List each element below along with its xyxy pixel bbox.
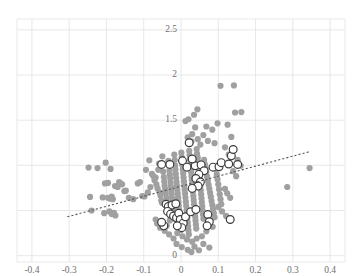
y-tick-label: 2.5	[165, 25, 177, 35]
y-tick-label: 1.5	[165, 115, 177, 125]
data-point	[224, 122, 230, 128]
data-point	[179, 233, 185, 239]
data-point	[191, 244, 197, 250]
data-point	[173, 241, 179, 247]
data-point	[217, 83, 223, 89]
data-point	[203, 123, 209, 129]
data-point	[193, 225, 199, 231]
data-point-highlighted	[225, 160, 233, 168]
data-point	[306, 165, 312, 171]
data-point	[211, 140, 217, 146]
x-tick-label: -0.3	[62, 266, 77, 276]
data-point-highlighted	[158, 218, 166, 226]
data-point	[159, 153, 165, 159]
data-point	[107, 166, 113, 172]
data-point	[182, 118, 188, 124]
data-point-highlighted	[234, 161, 242, 169]
data-point	[233, 173, 239, 179]
data-point-highlighted	[158, 161, 166, 169]
data-point-highlighted	[166, 161, 174, 169]
x-tick-label: -0.1	[136, 266, 151, 276]
data-point-highlighted	[226, 216, 234, 224]
data-point-highlighted	[185, 139, 193, 147]
x-tick-label: 0	[179, 266, 184, 276]
data-point	[231, 82, 237, 88]
data-point	[200, 132, 206, 138]
y-tick-label: 0	[172, 251, 177, 261]
y-tick-label: 2	[172, 70, 177, 80]
data-point	[191, 112, 197, 118]
data-point	[214, 120, 220, 126]
data-point	[112, 212, 118, 218]
data-point	[85, 165, 91, 171]
data-point	[232, 109, 238, 115]
data-point	[179, 244, 185, 250]
data-point	[110, 196, 116, 202]
data-point	[103, 160, 109, 166]
data-point	[160, 169, 166, 175]
data-point	[105, 180, 111, 186]
data-point	[194, 106, 200, 112]
data-point-highlighted	[188, 155, 196, 163]
data-point	[228, 134, 234, 140]
x-tick-label: 0.3	[287, 266, 299, 276]
data-point	[284, 184, 290, 190]
data-point	[206, 244, 212, 250]
data-point	[195, 136, 201, 142]
x-tick-label: 0.1	[212, 266, 224, 276]
data-point	[205, 138, 211, 144]
data-point-highlighted	[229, 146, 237, 154]
x-tick-label: 0.2	[250, 266, 262, 276]
data-point-highlighted	[192, 206, 200, 214]
data-point-highlighted	[172, 200, 180, 208]
data-point	[238, 109, 244, 115]
data-point-highlighted	[173, 222, 181, 230]
data-point	[197, 141, 203, 147]
data-point-highlighted	[188, 184, 196, 192]
data-point-highlighted	[204, 211, 212, 219]
data-point	[188, 249, 194, 255]
data-point	[171, 151, 177, 157]
data-point	[137, 179, 143, 185]
data-point-highlighted	[217, 159, 225, 167]
data-point-highlighted	[183, 163, 191, 171]
x-tick-label: -0.4	[24, 266, 39, 276]
data-point	[143, 167, 149, 173]
data-point	[209, 127, 215, 133]
data-point	[146, 157, 152, 163]
x-tick-label: 0.4	[324, 266, 336, 276]
data-point	[222, 144, 228, 150]
data-point	[87, 194, 93, 200]
data-point	[119, 181, 125, 187]
data-point	[200, 241, 206, 247]
x-tick-label: -0.2	[99, 266, 114, 276]
data-point	[147, 184, 153, 190]
data-point-highlighted	[203, 222, 211, 230]
data-point	[123, 188, 129, 194]
data-point	[94, 165, 100, 171]
data-point	[153, 174, 159, 180]
data-points-layer	[85, 82, 312, 255]
data-point	[227, 195, 233, 201]
data-point	[192, 124, 198, 130]
